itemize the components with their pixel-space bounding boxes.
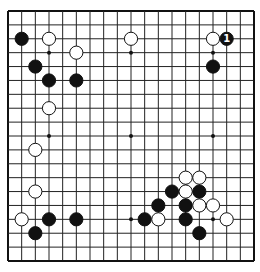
white-stone[interactable]	[206, 199, 219, 212]
black-stone[interactable]	[179, 199, 192, 212]
white-stone[interactable]	[152, 213, 165, 226]
black-stone[interactable]: 1	[220, 32, 233, 45]
star-point	[211, 51, 215, 55]
white-stone[interactable]	[29, 185, 42, 198]
white-stone[interactable]	[124, 32, 137, 45]
star-point	[47, 134, 51, 138]
black-stone[interactable]	[179, 213, 192, 226]
star-point	[129, 217, 133, 221]
white-stone[interactable]	[42, 102, 55, 115]
white-stone[interactable]	[29, 143, 42, 156]
star-point	[211, 134, 215, 138]
star-point	[211, 217, 215, 221]
white-stone[interactable]	[193, 199, 206, 212]
black-stone[interactable]	[152, 199, 165, 212]
white-stone[interactable]	[193, 171, 206, 184]
black-stone[interactable]	[15, 32, 28, 45]
white-stone[interactable]	[70, 46, 83, 59]
black-stone[interactable]	[193, 185, 206, 198]
white-stone[interactable]	[15, 213, 28, 226]
black-stone[interactable]	[138, 213, 151, 226]
white-stone[interactable]	[220, 213, 233, 226]
star-point	[129, 51, 133, 55]
star-point	[129, 134, 133, 138]
black-stone[interactable]	[29, 227, 42, 240]
star-point	[47, 51, 51, 55]
white-stone[interactable]	[179, 185, 192, 198]
black-stone[interactable]	[165, 185, 178, 198]
black-stone[interactable]	[193, 227, 206, 240]
white-stone[interactable]	[42, 32, 55, 45]
black-stone[interactable]	[29, 60, 42, 73]
black-stone[interactable]	[70, 213, 83, 226]
white-stone[interactable]	[206, 32, 219, 45]
black-stone[interactable]	[42, 74, 55, 87]
black-stone[interactable]	[42, 213, 55, 226]
go-board[interactable]: 1	[0, 0, 260, 272]
move-number-label: 1	[223, 33, 230, 44]
white-stone[interactable]	[179, 171, 192, 184]
black-stone[interactable]	[70, 74, 83, 87]
black-stone[interactable]	[206, 60, 219, 73]
